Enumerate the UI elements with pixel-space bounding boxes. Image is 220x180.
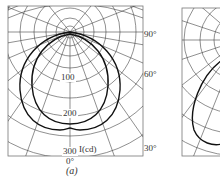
radial-label-100: 100	[60, 73, 76, 82]
intensity-curve-b	[192, 60, 220, 145]
panel-b-curves	[192, 60, 220, 145]
panel-b-grid	[124, 0, 220, 180]
radial-label-300: 300	[62, 147, 78, 156]
radial-label-200: 200	[62, 109, 78, 118]
angle-label-90: 90°	[144, 30, 157, 39]
polar-grid-diagram	[0, 0, 220, 180]
panel-a-caption: (a)	[66, 165, 78, 176]
angle-label-30: 30°	[144, 144, 157, 153]
angle-label-60: 60°	[144, 70, 157, 79]
unit-label: I(cd)	[78, 145, 98, 154]
panel-a-frame	[8, 6, 143, 156]
